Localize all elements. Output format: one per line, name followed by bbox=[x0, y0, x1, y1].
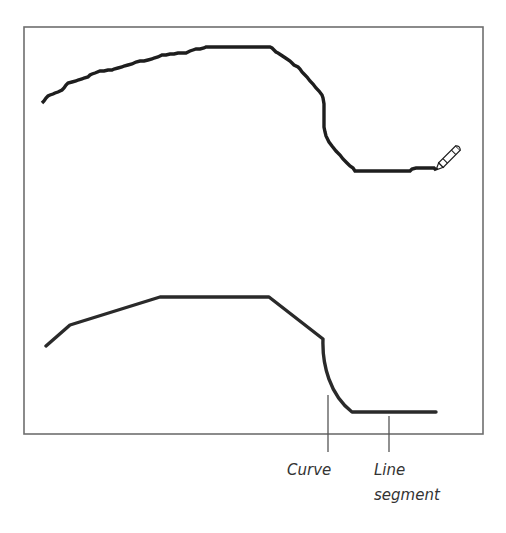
line-segment-label-line2: segment bbox=[374, 486, 441, 504]
drawing-frame bbox=[24, 27, 483, 434]
drawing-diagram: Curve Line segment bbox=[0, 0, 506, 533]
curve-label: Curve bbox=[287, 461, 331, 479]
line-segment-label-line1: Line bbox=[374, 461, 405, 479]
